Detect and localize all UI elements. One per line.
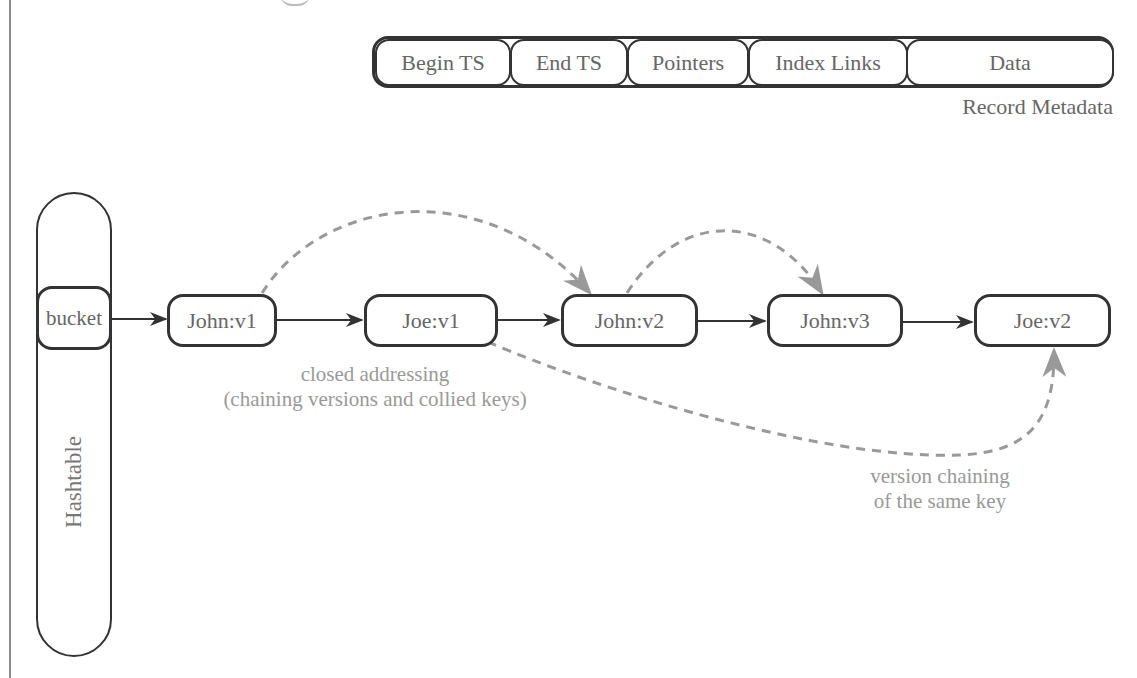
node-joe-v1: Joe:v1	[364, 294, 498, 347]
node-john-v3: John:v3	[767, 294, 903, 347]
node-label: Joe:v1	[402, 308, 459, 334]
node-label: John:v1	[187, 308, 257, 334]
annotation-line: version chaining	[820, 464, 1060, 489]
dashed-arrow-john-v2-to-john-v3	[627, 231, 822, 293]
closed-addressing-annotation: closed addressing (chaining versions and…	[165, 362, 585, 412]
node-john-v1: John:v1	[167, 294, 277, 347]
annotation-line: closed addressing	[165, 362, 585, 387]
node-john-v2: John:v2	[561, 294, 698, 347]
dashed-arrow-john-v1-to-john-v2	[262, 212, 590, 293]
node-label: John:v2	[595, 308, 665, 334]
node-label: Joe:v2	[1014, 308, 1071, 334]
version-chaining-annotation: version chaining of the same key	[820, 464, 1060, 514]
node-label: John:v3	[800, 308, 870, 334]
annotation-line: of the same key	[820, 489, 1060, 514]
annotation-line: (chaining versions and collied keys)	[165, 387, 585, 412]
node-joe-v2: Joe:v2	[974, 294, 1111, 347]
